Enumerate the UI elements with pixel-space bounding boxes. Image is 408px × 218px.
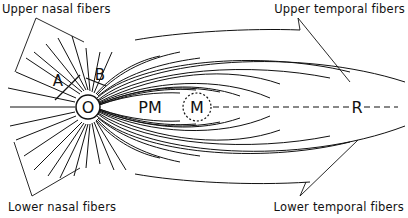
label-a: A: [53, 72, 64, 90]
label-b: B: [95, 66, 105, 84]
retina-fiber-diagram: O PM M R A B Upper nasal fibers Upper te…: [0, 0, 408, 218]
upper-nasal-label: Upper nasal fibers: [2, 2, 111, 16]
label-pm: PM: [138, 98, 161, 117]
lower-nasal-label: Lower nasal fibers: [8, 200, 116, 214]
lower-temporal-label: Lower temporal fibers: [274, 200, 404, 214]
nasal-radial-fibers: [8, 36, 126, 178]
label-o: O: [82, 98, 95, 117]
upper-temporal-label: Upper temporal fibers: [274, 2, 405, 16]
diagram-canvas: O PM M R A B: [0, 0, 408, 218]
label-m: M: [190, 98, 204, 117]
label-r: R: [351, 98, 362, 117]
